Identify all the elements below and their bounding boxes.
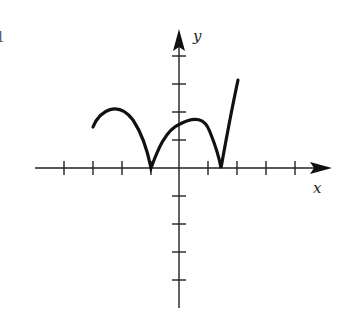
cropped-text-fragment: 1	[0, 29, 5, 45]
function-graph: 1 x y	[0, 0, 342, 332]
x-axis: x	[35, 161, 332, 197]
y-axis-label: y	[192, 27, 202, 45]
x-axis-label: x	[313, 179, 322, 197]
function-curve	[93, 80, 238, 168]
